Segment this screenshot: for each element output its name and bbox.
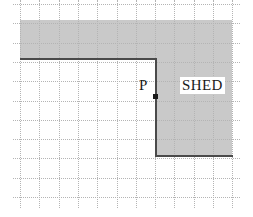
grid-lines <box>13 0 240 208</box>
shed-label: SHED <box>180 77 225 94</box>
region-edge-inner-top <box>20 58 156 60</box>
grid-line-horizontal <box>13 139 240 140</box>
geometry-diagram: P SHED <box>0 0 253 217</box>
grid-line-horizontal <box>13 62 240 63</box>
grid-line-horizontal <box>13 101 240 102</box>
grid-line-horizontal <box>13 178 240 179</box>
point-p-label: P <box>139 77 147 93</box>
grid-line-horizontal <box>13 197 240 198</box>
grid-line-horizontal <box>13 43 240 44</box>
grid-line-horizontal <box>13 23 240 24</box>
region-edge-inner-vertical <box>155 58 157 156</box>
grid-line-horizontal <box>13 120 240 121</box>
grid-line-horizontal <box>13 4 240 5</box>
region-edge-inner-bottom <box>155 155 233 157</box>
point-p-marker <box>153 94 158 99</box>
grid-line-horizontal <box>13 158 240 159</box>
